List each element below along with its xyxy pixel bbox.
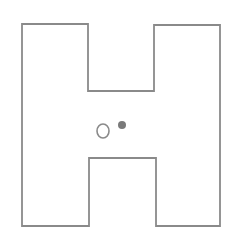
hollow-circle-marker bbox=[97, 124, 109, 138]
diagram-canvas bbox=[0, 0, 231, 237]
h-shape-diagram bbox=[0, 0, 231, 237]
filled-dot-marker bbox=[118, 121, 126, 129]
